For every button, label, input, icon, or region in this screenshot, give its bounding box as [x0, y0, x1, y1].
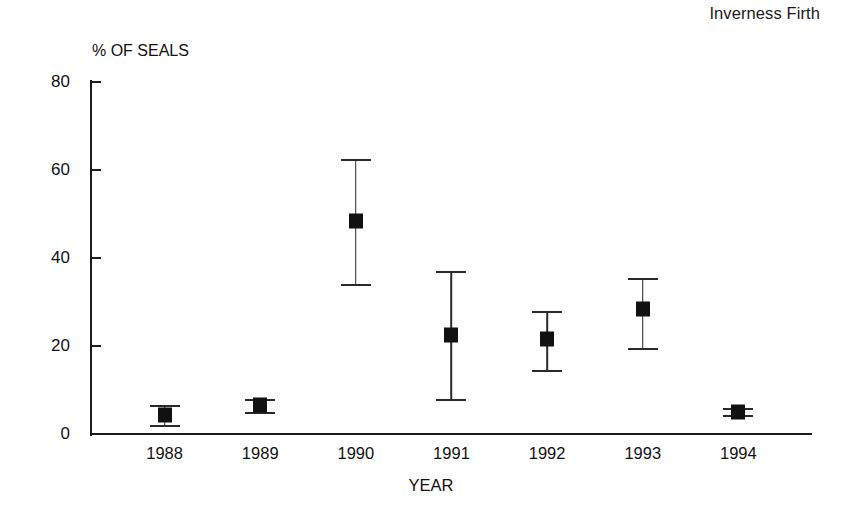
x-axis-tick-labels: 1988198919901991199219931994 [0, 444, 848, 470]
x-axis-tick-label: 1988 [146, 444, 183, 463]
x-axis-tick-label: 1993 [624, 444, 661, 463]
errorbar-cap-lower [150, 425, 180, 427]
plot-area [90, 82, 812, 434]
errorbar-cap-lower [436, 399, 466, 401]
y-axis-tick-label: 0 [24, 424, 70, 444]
data-point-marker [349, 213, 363, 228]
x-axis-tick-label: 1994 [720, 444, 757, 463]
y-axis-tick-label: 40 [24, 248, 70, 268]
chart-title: Inverness Firth [709, 4, 820, 23]
y-axis-label: % OF SEALS [92, 42, 189, 60]
errorbar-cap-upper [341, 159, 371, 161]
x-axis-tick-label: 1989 [242, 444, 279, 463]
x-axis-label-text: YEAR [409, 476, 454, 494]
data-point-marker [731, 405, 745, 420]
errorbar-cap-lower [628, 348, 658, 350]
chart-figure: Inverness Firth % OF SEALS 020406080 198… [0, 0, 848, 522]
errorbar-cap-lower [341, 284, 371, 286]
y-axis-tick-label: 60 [24, 160, 70, 180]
errorbar-cap-upper [532, 311, 562, 313]
data-point-marker [158, 408, 172, 423]
data-point-marker [540, 332, 554, 347]
errorbar-cap-upper [628, 278, 658, 280]
x-axis-tick-label: 1992 [529, 444, 566, 463]
y-axis-tick-label: 80 [24, 72, 70, 92]
x-axis-tick-label: 1990 [337, 444, 374, 463]
data-point-marker [444, 328, 458, 343]
y-axis-tick-label: 20 [24, 336, 70, 356]
x-axis-tick-label: 1991 [433, 444, 470, 463]
errorbar-cap-lower [532, 370, 562, 372]
data-point-marker [636, 301, 650, 316]
data-point-marker [253, 398, 267, 413]
errorbar-cap-upper [436, 271, 466, 273]
x-axis-label: YEAR [0, 476, 848, 495]
